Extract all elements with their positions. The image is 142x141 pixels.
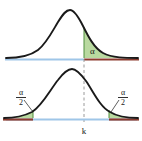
bottom-bell-curve (4, 69, 138, 118)
top-alpha-label: α (90, 46, 95, 56)
top-plot-group: α (5, 5, 139, 60)
top-bell-curve (6, 10, 138, 58)
bottom-right-alpha-numerator: α (121, 88, 126, 97)
critical-value-k-label: k (82, 126, 87, 136)
bottom-right-alpha-half-label: α 2 (111, 88, 128, 112)
bottom-left-alpha-numerator: α (19, 88, 24, 97)
bottom-right-leader-line (111, 100, 119, 112)
bottom-left-alpha-half-label: α 2 (16, 88, 33, 112)
bottom-right-alpha-denominator: 2 (121, 98, 125, 107)
distribution-diagram-svg: α α 2 (0, 0, 142, 141)
statistics-critical-region-figure: α α 2 (0, 0, 142, 141)
bottom-plot-group: α 2 α 2 (3, 64, 139, 120)
bottom-left-leader-line (24, 100, 33, 112)
bottom-left-alpha-denominator: 2 (19, 98, 23, 107)
